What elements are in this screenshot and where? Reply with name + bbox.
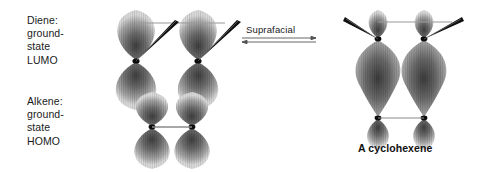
diene-lumo-orbitals [116,10,241,110]
equilibrium-arrow [242,36,316,43]
alkene-homo-label: Alkene: ground- state HOMO [27,95,64,148]
product-orbital-1 [356,10,401,150]
cyclohexene-product-label: A cyclohexene [358,142,432,154]
diene-lumo-label: Diene: ground- state LUMO [27,14,64,67]
alkene-homo-orbitals [134,92,209,169]
suprafacial-arrow-label: Suprafacial [246,24,295,35]
alkene-p-orbital-1 [134,92,169,169]
cyclohexene-product-orbitals [343,10,464,150]
figure-canvas: Diene: ground- state LUMO Alkene: ground… [0,0,482,172]
alkene-p-orbital-2 [174,92,209,169]
